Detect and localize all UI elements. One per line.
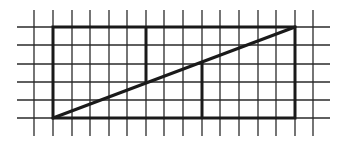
diagonal-line [53, 27, 295, 118]
grid-diagram [0, 0, 345, 142]
